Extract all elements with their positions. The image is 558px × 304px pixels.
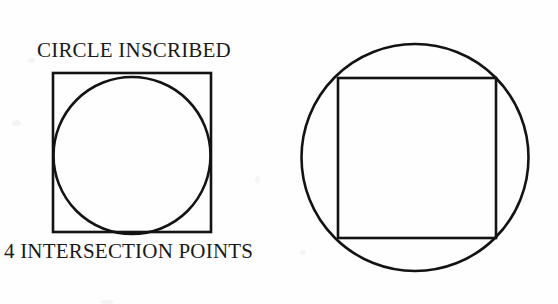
panel-circumscribed: CIRCLE CIRCUMSCRIBED 4 INTERSECTION POIN…	[279, 0, 558, 304]
inscribed-caption-label: 4 INTERSECTION POINTS	[4, 241, 253, 262]
panel-inscribed: CIRCLE INSCRIBED 4 INTERSECTION POINTS	[0, 0, 279, 304]
inscribed-title-label: CIRCLE INSCRIBED	[37, 40, 231, 61]
figure-root: CIRCLE INSCRIBED 4 INTERSECTION POINTS C…	[0, 0, 558, 304]
